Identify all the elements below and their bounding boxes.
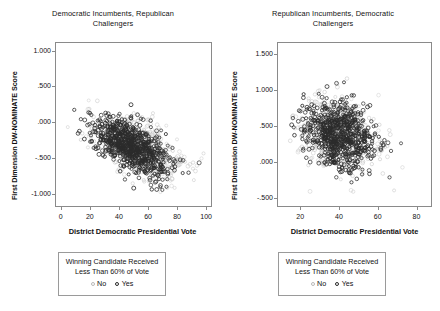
panel-title: Republican Incumbents, Democratic Challe… [234,9,432,29]
scatter-point [132,186,136,190]
scatter-point [122,173,126,177]
scatter-point [157,126,160,129]
scatter-point [150,188,153,191]
x-tick-mark [119,207,120,210]
x-tick-label: 80 [403,213,431,220]
scatter-point [79,118,82,121]
panel-title-line1: Democratic Incumbents, Republican [52,9,174,18]
y-tick-mark [274,162,277,163]
scatter-point [389,149,392,152]
y-axis-label: First Dimension DW-NOMINATE Score [10,71,19,200]
scatter-point [95,99,99,103]
scatter-point [393,189,396,192]
scatter-point [288,139,292,143]
y-tick-mark [274,198,277,199]
scatter-point [86,146,89,149]
scatter-point [386,141,390,145]
scatter-point [377,93,381,97]
scatter-point [388,176,391,179]
legend-title-line2: Less Than 60% of Vote [59,267,165,277]
scatter-point [312,131,316,135]
plot-area [277,42,432,207]
scatter-point [370,162,373,165]
panel-democratic-incumbents: Democratic Incumbents, Republican Challe… [0,0,220,311]
y-tick-label: 1.000 [19,47,51,54]
panel-title: Democratic Incumbents, Republican Challe… [14,9,212,29]
scatter-point [165,124,168,127]
y-tick-mark [52,158,55,159]
scatter-point [137,176,141,180]
scatter-point [87,99,90,102]
open-circle-icon [115,282,119,286]
scatter-point [66,126,69,129]
scatter-point [91,121,95,125]
y-tick-mark [52,194,55,195]
scatter-point [191,167,194,170]
scatter-point [161,188,164,191]
y-tick-mark [52,51,55,52]
y-tick-label: -.500 [19,154,51,161]
y-tick-label: .000 [19,118,51,125]
scatter-point [187,171,190,174]
panel-republican-incumbents: Republican Incumbents, Democratic Challe… [220,0,440,311]
scatter-point [178,150,182,154]
x-axis-label: District Democratic Presidential Vote [40,227,225,236]
scatter-point [99,113,103,117]
legend-key-no-label: No [317,279,326,288]
scatter-point [296,119,300,123]
panel-title-line1: Republican Incumbents, Democratic [272,9,394,18]
scatter-point [308,160,312,164]
panel-title-line2: Challengers [93,19,134,28]
scatter-point [383,138,387,142]
x-tick-label: 40 [105,213,133,220]
y-tick-label: .000 [241,158,273,165]
panel-title-line2: Challengers [313,19,354,28]
open-circle-icon [91,282,95,286]
scatter-point [381,172,385,176]
y-tick-mark [274,90,277,91]
scatter-point [293,133,297,137]
legend-key-yes-label: Yes [122,279,134,288]
scatter-point [377,129,381,133]
scatter-point [345,77,349,81]
open-circle-icon [311,282,315,286]
scatter-point [303,111,307,115]
scatter-point [97,152,101,156]
y-tick-label: 1.000 [241,86,273,93]
scatter-point [301,137,304,140]
scatter-point [151,112,154,115]
x-tick-label: 60 [134,213,162,220]
scatter-point [378,158,381,161]
scatter-point [175,138,178,141]
y-tick-label: .500 [241,122,273,129]
scatter-point [132,112,135,115]
scatter-point [129,103,133,107]
x-tick-label: 100 [192,213,220,220]
scatter-point [127,173,130,176]
x-tick-mark [339,207,340,210]
scatter-point [123,178,126,181]
scatter-point [191,161,194,164]
scatter-point [155,188,159,192]
scatter-point [352,94,355,97]
scatter-point [305,156,309,160]
x-tick-mark [378,207,379,210]
scatter-point [350,97,354,101]
legend: Winning Candidate Received Less Than 60%… [58,252,166,296]
y-axis-label: First Dimension DW-NOMINATE Score [230,71,239,200]
scatter-point [200,157,203,160]
scatter-points [56,43,212,207]
legend-key-no-label: No [97,279,106,288]
scatter-point [386,155,390,159]
legend-title-line1: Winning Candidate Received [59,257,165,267]
y-tick-mark [274,126,277,127]
x-tick-label: 40 [325,213,353,220]
scatter-point [197,161,201,165]
x-tick-label: 60 [364,213,392,220]
legend-title-line1: Winning Candidate Received [279,257,385,267]
scatter-point [388,129,392,133]
scatter-plot-figure: Democratic Incumbents, Republican Challe… [0,0,440,311]
scatter-point [367,116,370,119]
scatter-point [83,118,87,122]
scatter-point [192,179,195,182]
